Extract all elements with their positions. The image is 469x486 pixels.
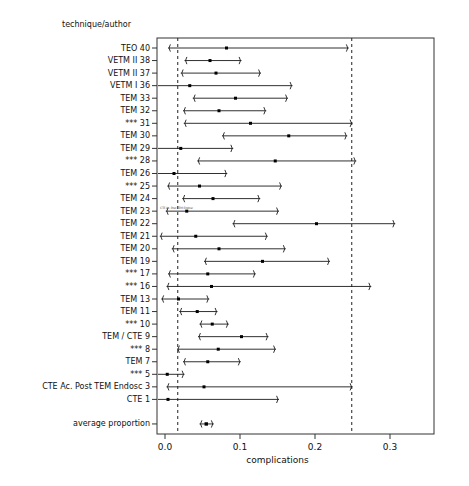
point-estimate-19 — [210, 285, 213, 288]
point-estimate-24 — [217, 348, 220, 351]
column-header-technique-author: technique/author — [62, 20, 132, 29]
row-label-1: VETM II 38 — [108, 56, 150, 65]
point-estimate-0 — [225, 47, 228, 50]
x-tick-label-3: 0.3 — [383, 442, 397, 452]
x-tick-label-0: 0.0 — [158, 442, 173, 452]
row-label-20: TEM 13 — [119, 295, 150, 304]
point-estimate-23 — [240, 335, 243, 338]
row-label-15: TEM 21 — [119, 232, 150, 241]
x-tick-label-2: 0.2 — [308, 442, 322, 452]
point-estimate-4 — [234, 97, 237, 100]
row-label-16: TEM 20 — [119, 244, 150, 253]
row-label-2: VETM II 37 — [108, 69, 150, 78]
row-label-26: *** 5 — [130, 370, 150, 379]
point-estimate-5 — [218, 109, 221, 112]
row-label-17: TEM 19 — [119, 257, 150, 266]
row-label-6: *** 31 — [125, 119, 150, 128]
point-estimate-18 — [206, 272, 209, 275]
row-label-22: *** 10 — [125, 320, 150, 329]
row-label-8: TEM 29 — [119, 144, 150, 153]
row-label-29: average proportion — [73, 419, 150, 428]
row-label-9: *** 28 — [125, 156, 150, 165]
overlap-artifact-text: CTE Ac. Post TEM Endosc — [160, 206, 194, 210]
row-label-28: CTE 1 — [127, 395, 150, 404]
point-estimate-7 — [287, 134, 290, 137]
row-label-27: CTE Ac. Post TEM Endosc 3 — [42, 382, 150, 391]
row-label-11: *** 25 — [125, 182, 150, 191]
point-estimate-22 — [211, 323, 214, 326]
point-estimate-16 — [218, 247, 221, 250]
row-label-23: TEM / CTE 9 — [101, 332, 150, 341]
point-estimate-10 — [173, 172, 176, 175]
point-estimate-2 — [215, 72, 218, 75]
row-label-3: VETM I 36 — [110, 81, 150, 90]
row-label-4: TEM 33 — [119, 94, 150, 103]
point-estimate-14 — [315, 222, 318, 225]
point-estimate-9 — [274, 159, 277, 162]
row-label-12: TEM 24 — [119, 194, 150, 203]
row-label-0: TEO 40 — [120, 44, 150, 53]
row-label-10: TEM 26 — [119, 169, 150, 178]
point-estimate-3 — [188, 84, 191, 87]
forest-plot: technique/authorTEO 40VETM II 38VETM II … — [0, 0, 469, 486]
row-label-7: TEM 30 — [119, 131, 150, 140]
point-estimate-11 — [198, 185, 201, 188]
point-estimate-28 — [167, 398, 170, 401]
row-label-24: *** 8 — [130, 345, 150, 354]
row-label-19: *** 16 — [125, 282, 150, 291]
point-estimate-27 — [203, 385, 206, 388]
point-estimate-20 — [177, 298, 180, 301]
x-axis-title: complications — [246, 455, 309, 465]
row-label-13: TEM 23 — [119, 207, 150, 216]
row-label-21: TEM 11 — [119, 307, 150, 316]
row-label-18: *** 17 — [125, 269, 150, 278]
row-label-25: TEM 7 — [125, 357, 150, 366]
point-estimate-6 — [249, 122, 252, 125]
point-estimate-26 — [166, 373, 169, 376]
point-estimate-13 — [185, 210, 188, 213]
point-estimate-15 — [194, 235, 197, 238]
point-estimate-12 — [212, 197, 215, 200]
point-estimate-29 — [205, 422, 208, 425]
row-label-5: TEM 32 — [119, 106, 150, 115]
x-tick-label-1: 0.1 — [233, 442, 247, 452]
point-estimate-21 — [196, 310, 199, 313]
row-label-14: TEM 22 — [119, 219, 150, 228]
point-estimate-1 — [209, 59, 212, 62]
point-estimate-17 — [261, 260, 264, 263]
point-estimate-25 — [206, 360, 209, 363]
point-estimate-8 — [179, 147, 182, 150]
